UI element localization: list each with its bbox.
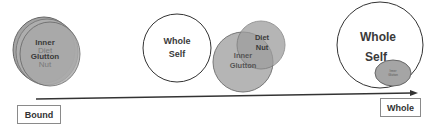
bound-label: Bound: [25, 110, 54, 120]
whole-label: Whole: [387, 103, 414, 113]
diagram-canvas: Inner Diet Glutton Nut Whole Self Inner …: [0, 0, 440, 130]
stage3-group: Whole Self Inner Glutton: [337, 2, 423, 88]
stage2-inner-label: Inner: [234, 51, 252, 60]
stage1-label-nut: Nut: [39, 60, 52, 69]
stage2-nut-label: Nut: [256, 43, 269, 52]
bound-label-box: Bound: [17, 105, 61, 124]
progress-arrow: [36, 90, 418, 99]
stage3-whole-label: Whole: [360, 30, 396, 44]
stage2-diet-label: Diet: [255, 33, 270, 42]
stage2-self-label: Self: [169, 49, 187, 59]
stage1-merged-circles: Inner Diet Glutton Nut: [13, 17, 80, 86]
whole-label-box: Whole: [380, 98, 421, 117]
stage2-group: Whole Self Inner Glutton Diet Nut: [143, 14, 285, 92]
stage2-glutton-label: Glutton: [230, 61, 257, 70]
stage2-whole-label: Whole: [164, 36, 191, 46]
stage3-small-glutton-label: Glutton: [388, 73, 398, 77]
